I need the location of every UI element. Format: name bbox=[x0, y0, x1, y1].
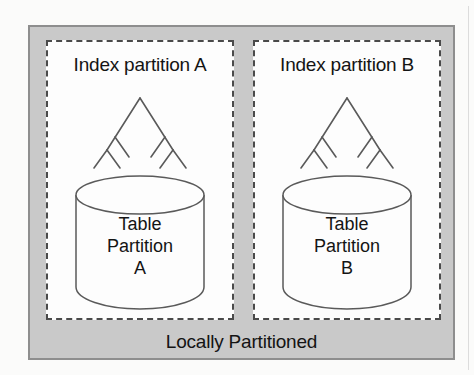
locally-partitioned-container: Index partition A bbox=[28, 25, 455, 360]
btree-index-icon bbox=[80, 94, 200, 170]
btree-index-icon bbox=[287, 94, 407, 170]
index-partition-a-title: Index partition A bbox=[48, 54, 232, 76]
index-partition-b-title: Index partition B bbox=[255, 54, 439, 76]
page-margin-rule bbox=[468, 6, 469, 370]
index-partition-panel-b[interactable]: Index partition B bbox=[253, 40, 441, 320]
index-partition-panel-a[interactable]: Index partition A bbox=[46, 40, 234, 320]
locally-partitioned-caption: Locally Partitioned bbox=[30, 331, 453, 353]
database-cylinder-icon: Table Partition B bbox=[281, 175, 413, 311]
database-cylinder-icon: Table Partition A bbox=[74, 175, 206, 311]
